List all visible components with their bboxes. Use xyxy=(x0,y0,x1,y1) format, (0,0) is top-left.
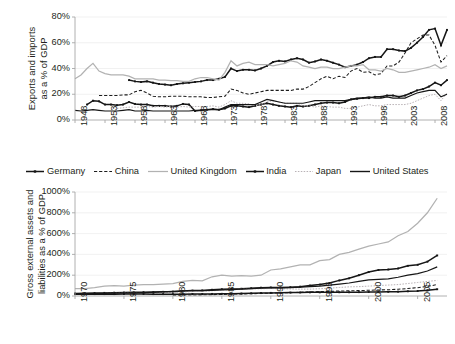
chart-figure: Exports and imports as a % of GDP 0%20%4… xyxy=(0,0,455,344)
x-tick-label: 1985 xyxy=(226,282,236,302)
x-tick-label: 2000 xyxy=(373,282,383,302)
y-tick-label: 40% xyxy=(52,63,70,73)
y-tick-label: 60% xyxy=(52,37,70,47)
x-tick-label: 1980 xyxy=(177,282,187,302)
top-chart-panel: Exports and imports as a % of GDP 0%20%4… xyxy=(0,0,455,160)
legend-item-india[interactable]: India xyxy=(246,166,287,176)
top-chart-plot xyxy=(0,0,455,160)
legend-item-united-kingdom[interactable]: United Kingdom xyxy=(148,166,237,176)
legend-swatch-icon xyxy=(295,167,313,176)
y-tick-label: 0% xyxy=(57,114,70,124)
legend-item-germany[interactable]: Germany xyxy=(26,166,85,176)
legend-swatch-icon xyxy=(246,167,264,176)
x-tick-label: 1975 xyxy=(128,282,138,302)
x-tick-label: 1963 xyxy=(169,106,179,126)
x-tick-label: 1988 xyxy=(319,106,329,126)
y-tick-label: 0% xyxy=(57,290,70,300)
bottom-chart-panel: Gross external assets and liabilities as… xyxy=(0,182,455,344)
x-tick-label: 2003 xyxy=(409,106,419,126)
legend-item-japan[interactable]: Japan xyxy=(295,166,341,176)
y-tick-label: 20% xyxy=(52,88,70,98)
y-tick-label: 400% xyxy=(47,248,71,258)
legend-swatch-icon xyxy=(94,167,112,176)
x-tick-label: 2008 xyxy=(439,106,449,126)
x-tick-label: 1973 xyxy=(229,106,239,126)
legend-item-china[interactable]: China xyxy=(94,166,139,176)
x-tick-label: 1995 xyxy=(324,282,334,302)
x-tick-label: 1968 xyxy=(199,106,209,126)
legend-item-label: United Kingdom xyxy=(171,166,237,176)
x-tick-label: 1983 xyxy=(289,106,299,126)
legend-item-label: Germany xyxy=(47,166,85,176)
legend-item-label: China xyxy=(115,166,139,176)
x-tick-label: 1978 xyxy=(259,106,269,126)
x-tick-label: 1990 xyxy=(275,282,285,302)
y-tick-label: 600% xyxy=(47,228,71,238)
legend-item-label: India xyxy=(266,166,286,176)
x-tick-label: 2005 xyxy=(422,282,432,302)
x-tick-label: 1948 xyxy=(79,106,89,126)
y-tick-label: 200% xyxy=(47,269,71,279)
x-tick-label: 1970 xyxy=(79,282,89,302)
legend-item-united-states[interactable]: United States xyxy=(350,166,428,176)
legend-swatch-icon xyxy=(148,167,168,176)
x-tick-label: 1998 xyxy=(379,106,389,126)
y-tick-label: 80% xyxy=(52,11,70,21)
chart-legend: GermanyChinaUnited KingdomIndiaJapanUnit… xyxy=(0,160,455,182)
legend-item-label: United States xyxy=(373,166,429,176)
x-tick-label: 1958 xyxy=(139,106,149,126)
y-tick-label: 1000% xyxy=(41,186,70,196)
y-tick-label: 800% xyxy=(47,207,71,217)
x-tick-label: 1953 xyxy=(109,106,119,126)
legend-swatch-icon xyxy=(350,167,370,176)
x-tick-label: 1993 xyxy=(349,106,359,126)
legend-item-label: Japan xyxy=(316,166,341,176)
legend-swatch-icon xyxy=(26,167,44,176)
